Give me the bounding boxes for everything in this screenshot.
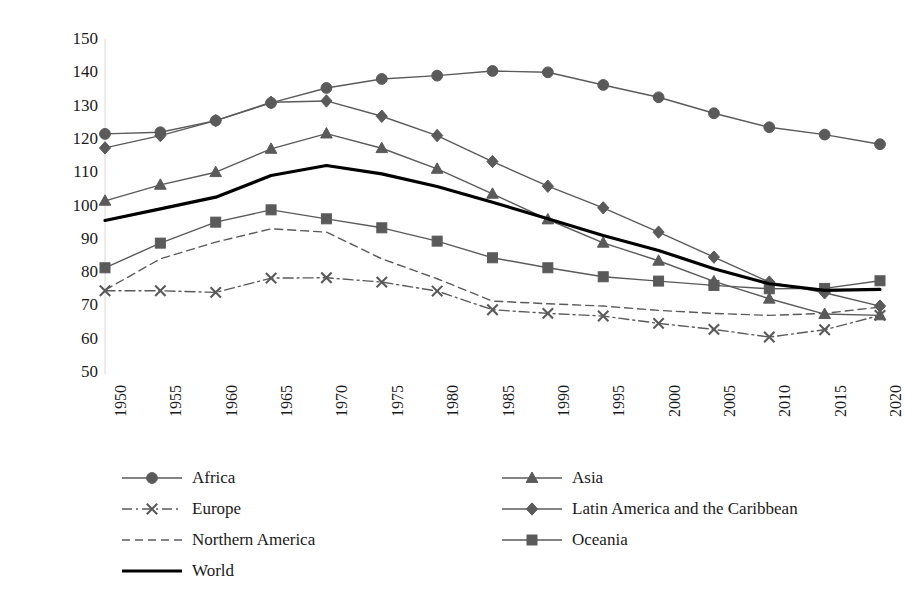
legend-marker-thick-solid: [120, 562, 192, 580]
legend-label: Europe: [192, 500, 241, 518]
data-point-circle: [819, 129, 830, 140]
series-africa: [100, 66, 886, 150]
x-axis-tick-label: 1960: [224, 385, 240, 417]
data-point-circle: [321, 83, 332, 94]
data-point-square: [488, 253, 498, 263]
series-line: [105, 71, 880, 144]
legend-label: Northern America: [192, 531, 315, 549]
legend-row: Northern AmericaOceania: [120, 524, 880, 555]
legend-label: Asia: [572, 469, 603, 487]
data-point-circle: [875, 139, 886, 150]
legend-marker-dashed: [120, 531, 192, 549]
data-point-square: [709, 280, 719, 290]
x-axis-tick-label: 1980: [445, 385, 461, 417]
data-point-square: [211, 217, 221, 227]
data-point-diamond: [542, 180, 553, 192]
data-point-square: [100, 263, 110, 273]
legend-swatch: [120, 562, 192, 580]
legend-row: World: [120, 555, 880, 586]
data-point-square: [527, 535, 537, 545]
legend-label: Africa: [192, 469, 235, 487]
data-point-triangle: [210, 166, 222, 176]
data-point-square: [598, 272, 608, 282]
data-point-square: [654, 276, 664, 286]
data-point-cross: [155, 286, 165, 296]
data-point-square: [155, 238, 165, 248]
data-point-diamond: [99, 142, 110, 154]
x-axis-tick-label: 2015: [833, 385, 849, 417]
data-point-circle: [764, 122, 775, 133]
series-line: [105, 166, 880, 291]
data-point-diamond: [708, 251, 719, 263]
legend-item-oceania[interactable]: Oceania: [500, 531, 880, 549]
data-point-circle: [598, 80, 609, 91]
data-point-square: [321, 214, 331, 224]
data-point-diamond: [321, 95, 332, 107]
x-axis-tick-label: 1950: [113, 385, 129, 417]
x-axis-tick-label: 1985: [501, 385, 517, 417]
data-point-cross: [266, 273, 276, 283]
x-axis-tick-label: 1975: [390, 385, 406, 417]
dependency-ratio-chart: Total Dependency Ratio 15014013012011010…: [0, 0, 905, 600]
legend-label: Latin America and the Caribbean: [572, 500, 798, 518]
data-point-circle: [376, 74, 387, 85]
data-point-cross: [432, 286, 442, 296]
legend-marker-circle: [120, 469, 192, 487]
data-point-circle: [487, 66, 498, 77]
series-line: [105, 210, 880, 289]
data-point-circle: [653, 92, 664, 103]
legend-item-northern-america[interactable]: Northern America: [120, 531, 500, 549]
x-axis-ticks: 1950195519601965197019751980198519901995…: [0, 385, 905, 455]
legend-label: World: [192, 562, 234, 580]
data-point-square: [543, 263, 553, 273]
x-axis-tick-label: 1990: [556, 385, 572, 417]
legend-marker-diamond: [500, 500, 572, 518]
data-point-square: [377, 223, 387, 233]
data-point-triangle: [597, 237, 609, 247]
legend-marker-cross: [120, 500, 192, 518]
series-line: [105, 278, 880, 337]
legend-item-latin-america-and-the-caribbean[interactable]: Latin America and the Caribbean: [500, 500, 880, 518]
legend-marker-square: [500, 531, 572, 549]
x-axis-tick-label: 1970: [334, 385, 350, 417]
x-axis-tick-label: 2005: [722, 385, 738, 417]
legend-swatch: [120, 500, 192, 518]
data-point-circle: [542, 67, 553, 78]
data-point-cross: [487, 305, 497, 315]
data-point-diamond: [653, 226, 664, 238]
data-point-square: [266, 205, 276, 215]
data-point-cross: [709, 324, 719, 334]
x-axis-tick-label: 2010: [777, 385, 793, 417]
data-point-circle: [100, 129, 111, 140]
data-point-diamond: [526, 502, 537, 514]
data-point-diamond: [376, 110, 387, 122]
data-point-square: [875, 276, 885, 286]
legend-row: AfricaAsia: [120, 462, 880, 493]
legend-swatch: [500, 500, 572, 518]
legend-swatch: [500, 531, 572, 549]
legend-item-africa[interactable]: Africa: [120, 469, 500, 487]
legend-item-asia[interactable]: Asia: [500, 469, 880, 487]
x-axis-tick-label: 2020: [888, 385, 904, 417]
legend-label: Oceania: [572, 531, 628, 549]
data-point-circle: [147, 472, 158, 483]
x-axis-tick-label: 1955: [168, 385, 184, 417]
data-point-diamond: [432, 129, 443, 141]
legend-item-world[interactable]: World: [120, 562, 880, 580]
legend-swatch: [120, 469, 192, 487]
data-point-diamond: [598, 202, 609, 214]
data-point-triangle: [321, 128, 333, 138]
x-axis-tick-label: 2000: [667, 385, 683, 417]
legend-swatch: [500, 469, 572, 487]
series-world: [105, 166, 880, 291]
legend-swatch: [120, 531, 192, 549]
data-point-circle: [432, 70, 443, 81]
data-point-circle: [709, 108, 720, 119]
legend-row: EuropeLatin America and the Caribbean: [120, 493, 880, 524]
data-point-square: [432, 236, 442, 246]
x-axis-tick-label: 1965: [279, 385, 295, 417]
data-point-triangle: [487, 188, 499, 198]
chart-legend: AfricaAsiaEuropeLatin America and the Ca…: [120, 462, 880, 586]
legend-item-europe[interactable]: Europe: [120, 500, 500, 518]
x-axis-tick-label: 1995: [611, 385, 627, 417]
